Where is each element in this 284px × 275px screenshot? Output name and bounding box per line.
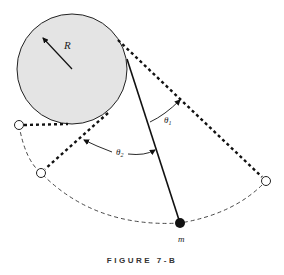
bob-left-lower bbox=[37, 169, 46, 178]
figure-caption: FIGURE 7-B bbox=[0, 256, 284, 265]
string-right-extreme bbox=[118, 40, 262, 177]
bob-right-extreme bbox=[262, 177, 271, 186]
pendulum-diagram: R m θ1 θ2 bbox=[0, 0, 284, 275]
theta2-arc-right bbox=[128, 150, 155, 155]
pendulum-string bbox=[127, 59, 180, 223]
radius-label: R bbox=[63, 39, 71, 51]
mass-label: m bbox=[178, 234, 185, 244]
bob-left-top bbox=[15, 121, 24, 130]
swing-arc bbox=[19, 125, 266, 223]
pendulum-mass bbox=[175, 218, 185, 228]
string-left-horizontal bbox=[24, 124, 68, 125]
theta2-arc-left bbox=[84, 140, 112, 152]
theta2-label: θ2 bbox=[116, 147, 123, 158]
theta1-label: θ1 bbox=[164, 115, 171, 126]
